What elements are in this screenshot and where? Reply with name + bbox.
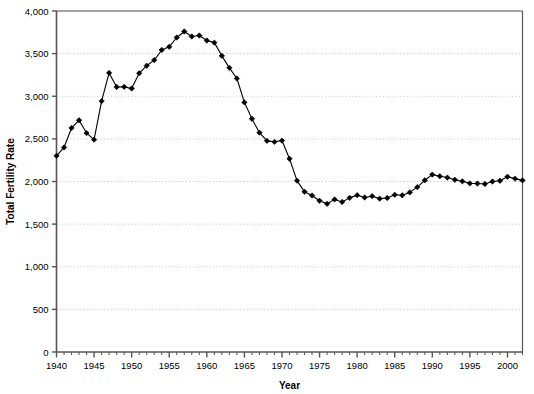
- x-tick-label: 2000: [497, 360, 518, 371]
- y-tick-label: 3,000: [25, 91, 49, 102]
- data-point-marker: [520, 178, 525, 183]
- data-point-marker: [400, 193, 405, 198]
- data-point-marker: [272, 139, 277, 144]
- axis-layer: [57, 11, 523, 352]
- data-point-marker: [106, 70, 111, 75]
- y-tick-label: 1,500: [25, 219, 49, 230]
- x-tick-labels: 1940194519501955196019651970197519801985…: [46, 360, 518, 371]
- data-point-marker: [482, 181, 487, 186]
- x-tick-label: 1945: [84, 360, 105, 371]
- data-point-marker: [212, 40, 217, 45]
- data-series-line: [57, 31, 523, 203]
- x-tick-label: 1980: [347, 360, 368, 371]
- x-tick-label: 1950: [121, 360, 142, 371]
- chart-canvas: 05001,0001,5002,0002,5003,0003,5004,000 …: [0, 0, 534, 394]
- data-point-marker: [279, 138, 284, 143]
- data-point-marker: [129, 86, 134, 91]
- data-point-marker: [347, 195, 352, 200]
- series-path: [57, 31, 523, 203]
- data-point-marker: [114, 84, 119, 89]
- data-point-marker: [339, 199, 344, 204]
- x-tick-label: 1995: [459, 360, 480, 371]
- data-point-marker: [362, 195, 367, 200]
- x-tick-label: 1990: [422, 360, 443, 371]
- y-tick-label: 4,000: [25, 6, 49, 17]
- x-tick-label: 1965: [234, 360, 255, 371]
- data-point-marker: [324, 201, 329, 206]
- data-point-marker: [460, 179, 465, 184]
- data-point-marker: [287, 156, 292, 161]
- data-point-marker: [437, 174, 442, 179]
- data-point-marker: [249, 116, 254, 121]
- y-tick-labels: 05001,0001,5002,0002,5003,0003,5004,000: [25, 6, 49, 358]
- data-point-marker: [392, 192, 397, 197]
- x-tick-label: 1940: [46, 360, 67, 371]
- data-point-marker: [369, 193, 374, 198]
- x-tick-label: 1985: [384, 360, 405, 371]
- y-tick-label: 2,000: [25, 176, 49, 187]
- y-axis-title: Total Fertility Rate: [5, 138, 16, 225]
- data-point-marker: [490, 179, 495, 184]
- y-tick-label: 500: [33, 304, 49, 315]
- y-tick-label: 3,500: [25, 48, 49, 59]
- fertility-rate-chart: 05001,0001,5002,0002,5003,0003,5004,000 …: [0, 0, 534, 394]
- data-point-marker: [445, 175, 450, 180]
- data-point-marker: [99, 98, 104, 103]
- data-point-marker: [505, 174, 510, 179]
- x-tick-label: 1975: [309, 360, 330, 371]
- data-point-marker: [512, 176, 517, 181]
- x-tick-marks: [57, 352, 523, 358]
- data-point-markers: [54, 29, 525, 207]
- data-point-marker: [452, 177, 457, 182]
- x-axis-title: Year: [279, 380, 300, 391]
- data-point-marker: [242, 100, 247, 105]
- y-tick-label: 0: [43, 347, 48, 358]
- y-tick-label: 1,000: [25, 261, 49, 272]
- y-tick-label: 2,500: [25, 133, 49, 144]
- x-tick-label: 1960: [196, 360, 217, 371]
- x-tick-label: 1955: [159, 360, 180, 371]
- data-point-marker: [377, 196, 382, 201]
- x-tick-label: 1970: [271, 360, 292, 371]
- data-point-marker: [497, 178, 502, 183]
- data-point-marker: [121, 84, 126, 89]
- data-point-marker: [385, 195, 390, 200]
- data-point-marker: [354, 192, 359, 197]
- data-point-marker: [332, 197, 337, 202]
